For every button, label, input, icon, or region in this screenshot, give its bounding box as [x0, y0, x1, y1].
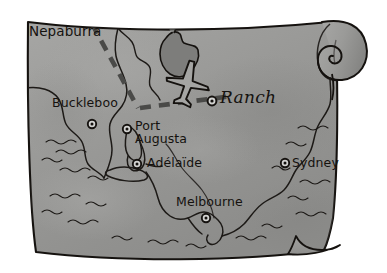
marker-buckleboo[interactable]: [88, 120, 96, 128]
city-label-port-augusta: Port Augusta: [135, 119, 187, 146]
map-canvas: [0, 0, 387, 273]
destination-marker[interactable]: [208, 97, 217, 106]
city-label-sydney: Sydney: [292, 157, 339, 170]
city-label-port-line2: Augusta: [135, 132, 187, 145]
region-label-nepaburra: Nepaburra: [29, 25, 101, 39]
destination-label-ranch: Ranch: [220, 89, 276, 106]
marker-adelaide[interactable]: [133, 160, 141, 168]
city-label-melbourne: Melbourne: [176, 196, 243, 209]
marker-melbourne[interactable]: [202, 214, 210, 222]
city-label-buckleboo: Buckleboo: [52, 97, 118, 110]
marker-sydney[interactable]: [281, 159, 289, 167]
city-label-port-line1: Port: [135, 119, 187, 132]
marker-port-augusta[interactable]: [123, 125, 131, 133]
city-label-adelaide: Adélaïde: [147, 157, 202, 170]
map-illustration: Nepaburra Buckleboo Port Augusta Adélaïd…: [0, 0, 387, 273]
